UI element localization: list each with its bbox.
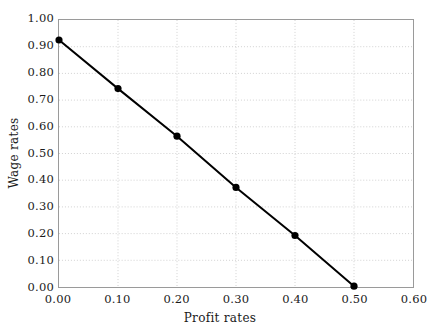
x-tick-label: 0.10 — [87, 294, 147, 306]
y-tick-label: 0.90 — [8, 40, 54, 52]
y-tick-label: 0.50 — [8, 148, 54, 160]
y-tick-label: 0.10 — [8, 255, 54, 267]
x-tick-label: 0.40 — [265, 294, 325, 306]
data-point-marker — [55, 36, 62, 43]
x-axis-label: Profit rates — [0, 311, 440, 325]
series-line — [59, 40, 354, 286]
x-tick-label: 0.60 — [384, 294, 440, 306]
y-tick-label: 0.60 — [8, 121, 54, 133]
y-tick-label: 0.20 — [8, 228, 54, 240]
x-tick-label: 0.00 — [28, 294, 88, 306]
plot-area — [58, 19, 414, 288]
data-point-marker — [173, 133, 180, 140]
y-tick-label: 0.70 — [8, 94, 54, 106]
y-tick-label: 1.00 — [8, 13, 54, 25]
data-point-marker — [291, 232, 298, 239]
data-point-marker — [114, 85, 121, 92]
x-tick-label: 0.30 — [206, 294, 266, 306]
y-tick-label: 0.30 — [8, 202, 54, 214]
x-tick-label: 0.20 — [147, 294, 207, 306]
data-point-marker — [350, 283, 357, 290]
data-series-layer — [59, 20, 413, 287]
data-point-marker — [232, 184, 239, 191]
y-tick-label: 0.80 — [8, 67, 54, 79]
y-tick-label: 0.40 — [8, 175, 54, 187]
x-tick-label: 0.50 — [325, 294, 385, 306]
chart-figure: Wage rates 0.000.100.200.300.400.500.600… — [0, 0, 440, 331]
